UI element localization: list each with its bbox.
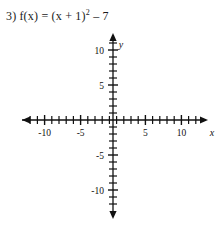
y-axis-label: y — [118, 39, 124, 50]
function-name: f(x) — [19, 9, 38, 23]
exponent: 2 — [86, 8, 90, 17]
problem-statement: 3)f(x) = (x + 1)2 – 7 — [6, 9, 109, 23]
x-axis-right-arrow-icon — [200, 116, 208, 123]
expression-base: (x + 1) — [52, 9, 86, 23]
y-tick-label-5: 5 — [99, 81, 104, 91]
problem-expression: f(x) = (x + 1)2 – 7 — [19, 9, 108, 23]
y-axis-up-arrow-icon — [109, 33, 116, 41]
constant-term: – 7 — [93, 9, 109, 23]
y-tick-label-neg10: -10 — [91, 186, 104, 196]
y-axis: 10 5 -5 -10 y — [91, 33, 123, 219]
graph-svg: -10 -5 5 10 x — [0, 26, 223, 226]
x-tick-label-neg5: -5 — [77, 128, 85, 138]
x-axis-label: x — [209, 127, 215, 138]
equals-sign: = — [41, 9, 48, 23]
x-tick-label-10: 10 — [177, 128, 187, 138]
y-tick-label-neg5: -5 — [96, 151, 104, 161]
problem-number: 3) — [6, 9, 16, 23]
y-axis-down-arrow-icon — [109, 211, 116, 219]
cartesian-graph: -10 -5 5 10 x — [0, 26, 223, 226]
y-tick-label-10: 10 — [95, 46, 105, 56]
x-tick-label-5: 5 — [143, 128, 148, 138]
x-axis-left-arrow-icon — [22, 116, 30, 123]
x-tick-label-neg10: -10 — [38, 128, 51, 138]
x-axis: -10 -5 5 10 x — [22, 115, 215, 138]
